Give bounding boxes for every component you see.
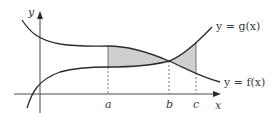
shaded-region-a-to-b bbox=[108, 46, 169, 67]
area-between-curves-diagram: y x y = g(x) y = f(x) a b c bbox=[0, 0, 276, 115]
curve-g-label: y = g(x) bbox=[215, 20, 260, 33]
y-axis-arrow-icon bbox=[37, 11, 43, 19]
y-axis-label: y bbox=[27, 6, 35, 19]
x-axis-label: x bbox=[215, 99, 222, 112]
x-axis-arrow-icon bbox=[213, 91, 221, 97]
point-c-label: c bbox=[193, 98, 199, 111]
point-b-label: b bbox=[166, 98, 173, 111]
point-a-label: a bbox=[105, 98, 112, 111]
curve-f-label: y = f(x) bbox=[223, 76, 265, 89]
